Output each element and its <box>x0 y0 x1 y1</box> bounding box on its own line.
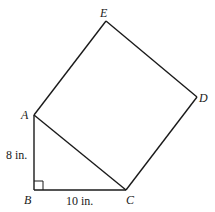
segment-ac <box>34 115 126 190</box>
geometry-figure: E D A B C 8 in. 10 in. <box>0 0 215 212</box>
vertex-label-a: A <box>20 108 29 122</box>
vertex-label-b: B <box>24 193 32 207</box>
right-angle-marker <box>34 181 43 190</box>
vertex-label-c: C <box>126 193 135 207</box>
segment-de <box>106 21 197 97</box>
vertex-label-e: E <box>99 6 108 20</box>
segment-ea <box>34 21 106 115</box>
segment-cd <box>126 97 197 190</box>
measure-ab: 8 in. <box>6 148 27 162</box>
vertex-label-d: D <box>198 91 208 105</box>
measure-bc: 10 in. <box>66 194 93 208</box>
figure-canvas: E D A B C 8 in. 10 in. <box>0 0 215 212</box>
